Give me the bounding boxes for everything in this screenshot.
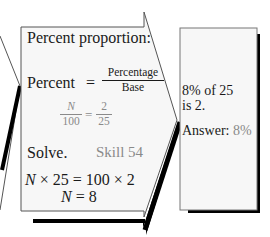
proportion-right-numerator: 2 bbox=[96, 101, 112, 115]
proportion-left-fraction: N 100 bbox=[60, 101, 82, 127]
answer-statement-line-2: is 2. bbox=[182, 99, 205, 113]
answer-value: 8% bbox=[233, 123, 252, 138]
fraction-numerator: Percentage bbox=[102, 67, 164, 81]
arrow-panel-bottom-shadow bbox=[33, 219, 145, 223]
fraction-denominator: Base bbox=[102, 81, 164, 94]
equation-1-rest: × 25 = 100 × 2 bbox=[36, 171, 135, 188]
proportion-equals: = bbox=[85, 108, 92, 121]
equation-1-variable: N bbox=[25, 171, 36, 188]
answer-statement-line-1: 8% of 25 bbox=[182, 84, 233, 98]
percentage-over-base-fraction: Percentage Base bbox=[102, 67, 164, 93]
proportion-left-denominator: 100 bbox=[60, 115, 82, 128]
equation-2-variable: N bbox=[61, 188, 72, 205]
solve-label: Solve. bbox=[27, 145, 67, 161]
proportion-left-numerator: N bbox=[60, 101, 82, 115]
proportion-right-fraction: 2 25 bbox=[96, 101, 112, 127]
equation-line-2: N = 8 bbox=[61, 189, 97, 205]
proportion-right-denominator: 25 bbox=[96, 115, 112, 128]
skill-reference: Skill 54 bbox=[96, 145, 143, 160]
answer-label: Answer: bbox=[182, 123, 229, 138]
answer-line: Answer: 8% bbox=[182, 124, 252, 138]
equation-line-1: N × 25 = 100 × 2 bbox=[25, 172, 135, 188]
formula-lhs: Percent bbox=[27, 75, 75, 91]
arrow-heading: Percent proportion: bbox=[27, 30, 151, 46]
answer-panel bbox=[180, 28, 257, 210]
equation-2-rest: = 8 bbox=[72, 188, 97, 205]
previous-arrow-tail-shadow bbox=[2, 86, 20, 170]
formula-equals: = bbox=[86, 75, 95, 91]
previous-arrow-tail bbox=[0, 36, 20, 210]
